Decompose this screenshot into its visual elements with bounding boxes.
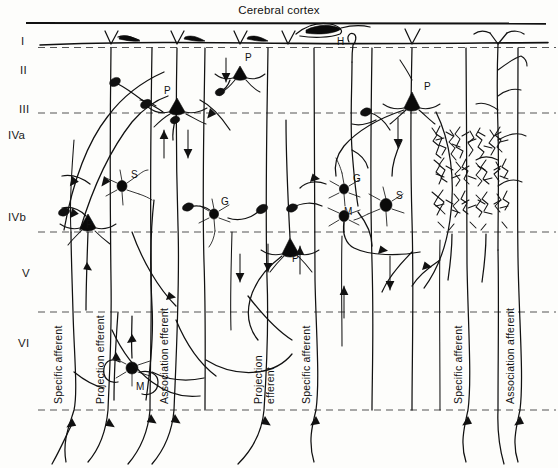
fiber-specific-afferent-left-entry bbox=[52, 424, 72, 464]
collateral-ascending-left bbox=[80, 96, 168, 230]
apical-tuft-4 bbox=[282, 31, 295, 44]
pyramidal-cell-V bbox=[261, 120, 319, 272]
pyramidal-soma-2 bbox=[233, 66, 247, 80]
collateral-right-sweep bbox=[335, 110, 404, 176]
apical-tuft-5 bbox=[405, 29, 420, 44]
fiber-association-efferent-shaft bbox=[128, 48, 152, 464]
pyramidal-cell-label-2: P bbox=[164, 85, 171, 96]
label-specific-afferent-left: Specific afferent bbox=[52, 326, 64, 405]
basal-dend-ivb-d bbox=[95, 231, 110, 244]
bouton-4 bbox=[182, 203, 193, 211]
pyramidal-IVb-axon bbox=[86, 232, 88, 310]
basal-dend-3c bbox=[186, 114, 206, 124]
arrow-down-ivb-axon bbox=[83, 262, 92, 270]
arrow-up-3 bbox=[340, 286, 349, 295]
martinotti-loop-2a bbox=[104, 360, 120, 382]
far-right-branch-4 bbox=[498, 134, 526, 140]
far-right-branch-1 bbox=[498, 56, 527, 70]
page-title: Cerebral cortex bbox=[238, 4, 320, 16]
bouton-7 bbox=[58, 208, 69, 216]
horizontal-cell-soma bbox=[306, 25, 341, 34]
collateral-long-diagonal bbox=[146, 200, 154, 400]
stellate-cell-1 bbox=[106, 170, 152, 205]
layer-label-III: III bbox=[19, 103, 30, 115]
far-right-branch-3 bbox=[476, 103, 498, 110]
label-specific-afferent-middle: Specific afferent bbox=[300, 326, 312, 405]
apical-tuft-6-left bbox=[474, 31, 490, 34]
arrow-up-martinotti-2 bbox=[127, 334, 137, 343]
apical-tuft-1 bbox=[105, 31, 118, 44]
pyramidal-soma-right bbox=[404, 92, 420, 111]
arrow-up-association-afferent-right bbox=[514, 416, 524, 425]
arrow-down-1 bbox=[184, 149, 193, 158]
tuft-2-branch-fill bbox=[184, 36, 205, 41]
cell-letter-labels: H P P P S G G S M P P M bbox=[86, 36, 431, 392]
arrow-up-specific-afferent-left bbox=[66, 418, 76, 427]
basal-dend-r-b bbox=[420, 104, 440, 109]
arborization-stem-1 bbox=[448, 234, 452, 280]
stellate-soma-2 bbox=[380, 199, 392, 212]
granule-soma-2 bbox=[339, 184, 348, 194]
arrow-up-1 bbox=[160, 130, 169, 139]
arrow-left-cross-1 bbox=[166, 292, 176, 300]
collateral-arc-left bbox=[64, 72, 164, 230]
pyramidal-cell-label-3: P bbox=[424, 81, 431, 92]
basal-dend-r-a bbox=[383, 104, 404, 109]
arrow-left-martinotti-1 bbox=[378, 246, 388, 254]
collateral-connections bbox=[58, 58, 452, 400]
layer-VI-sweep-3 bbox=[206, 354, 292, 373]
pyramidal-cell-2 bbox=[215, 66, 265, 92]
stellate-dendrites-1b bbox=[137, 170, 152, 200]
label-projection-efferent-middle-line1: Projection bbox=[252, 355, 264, 404]
stellate-soma-1 bbox=[117, 181, 127, 192]
label-projection-efferent-left: Projection efferent bbox=[94, 315, 106, 404]
pyramidal-cell-label-4: P bbox=[86, 219, 93, 230]
layer-label-I: I bbox=[21, 35, 25, 47]
basal-dend-r-d bbox=[419, 110, 435, 124]
far-right-branch-6 bbox=[498, 180, 522, 186]
right-v-arc bbox=[382, 252, 412, 292]
apical-dend-r bbox=[400, 60, 412, 80]
right-collateral-branch bbox=[352, 150, 368, 168]
pyramidal-cell-label-1: P bbox=[245, 52, 252, 63]
pyramidal-cell-label-5: P bbox=[292, 253, 299, 264]
arrow-down-left-VI bbox=[112, 352, 121, 361]
top-rule bbox=[26, 23, 546, 24]
connector-2 bbox=[228, 210, 260, 220]
basal-dend-ivb-a bbox=[60, 224, 80, 229]
arrow-up-collateral-left bbox=[101, 176, 110, 186]
boundary-pia-surface bbox=[40, 43, 548, 45]
pyramidal-V-apical bbox=[286, 120, 290, 238]
dense-terminal-arborization bbox=[432, 126, 509, 282]
fiber-name-labels: Specific afferent Projection efferent As… bbox=[52, 308, 516, 404]
label-specific-afferent-right: Specific afferent bbox=[452, 326, 464, 405]
arborization-stem-2 bbox=[482, 234, 486, 282]
bouton-9 bbox=[360, 108, 371, 116]
basal-dend-2b bbox=[247, 74, 265, 79]
arrow-down-6 bbox=[394, 139, 403, 148]
layer-label-V: V bbox=[22, 267, 30, 279]
layer-label-VI: VI bbox=[18, 337, 29, 349]
granule-cell-label-2: G bbox=[353, 173, 361, 184]
fiber-slender-1 bbox=[231, 232, 232, 330]
granule-cell-label-1: G bbox=[221, 196, 229, 207]
horizontal-cell-process bbox=[341, 26, 370, 28]
right-ivb-in bbox=[300, 182, 326, 188]
arrow-up-specific-afferent-right bbox=[462, 416, 472, 425]
stellate-cell-label-1: S bbox=[131, 169, 138, 180]
tuft-3-branch-fill bbox=[247, 36, 268, 41]
apical-tuft-6-right bbox=[507, 31, 524, 34]
layer-label-II: II bbox=[20, 64, 27, 76]
horizontal-cell-label: H bbox=[337, 36, 344, 47]
arrow-left-v-right bbox=[422, 261, 432, 270]
arrow-down-pyramidal-III bbox=[171, 414, 181, 424]
martinotti-cell-label-2: M bbox=[136, 381, 144, 392]
layer-label-IVa: IVa bbox=[8, 129, 26, 141]
fiber-specific-afferent-left-upper bbox=[70, 140, 74, 232]
label-association-afferent-right: Association afferent bbox=[504, 308, 516, 404]
pyramidal-soma-3 bbox=[169, 98, 185, 115]
basal-dend-3d bbox=[154, 114, 170, 127]
arrow-down-2 bbox=[222, 73, 231, 82]
bouton-8 bbox=[215, 88, 225, 95]
cortex-diagram-canvas: Cerebral cortex I II III IVa IVb V VI bbox=[0, 0, 558, 468]
